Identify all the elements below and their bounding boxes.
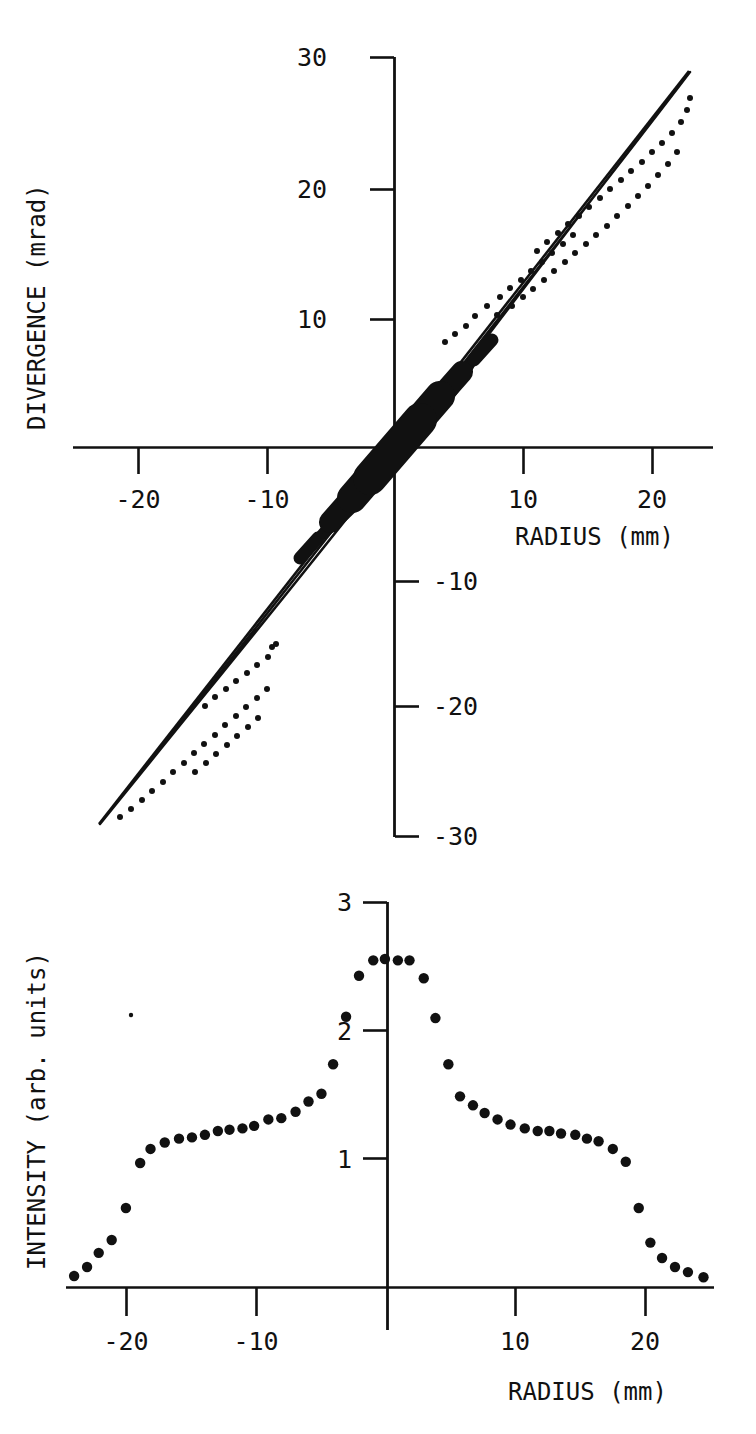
top-y-label-10: 10: [297, 305, 327, 334]
intensity-data-point: [316, 1089, 326, 1099]
intensity-data-point: [520, 1123, 530, 1133]
top-x-label-minus-10: -10: [244, 485, 289, 514]
intensity-data-point: [533, 1126, 543, 1136]
intensity-data-point: [468, 1100, 478, 1110]
intensity-data-point: [380, 954, 390, 964]
intensity-data-point: [419, 973, 429, 983]
intensity-data-point: [303, 1096, 313, 1106]
bottom-x-label-minus-10: -10: [233, 1327, 278, 1356]
intensity-data-point: [582, 1133, 592, 1143]
intensity-data-point: [404, 955, 414, 965]
intensity-data-point: [174, 1133, 184, 1143]
intensity-data-point: [354, 971, 364, 981]
intensity-data-point: [94, 1248, 104, 1258]
phase-space-core: [300, 340, 492, 558]
intensity-data-point: [443, 1059, 453, 1069]
intensity-data-point: [479, 1108, 489, 1118]
intensity-data-point: [263, 1114, 273, 1124]
intensity-data-point: [121, 1203, 131, 1213]
bottom-x-label-10: 10: [500, 1327, 530, 1356]
intensity-data-point: [698, 1272, 708, 1282]
bottom-x-axis-title: RADIUS (mm): [508, 1378, 667, 1406]
intensity-data-point: [670, 1262, 680, 1272]
top-x-label-minus-20: -20: [115, 485, 160, 514]
top-x-axis-title: RADIUS (mm): [515, 523, 674, 551]
bottom-y-label-2: 2: [337, 1017, 352, 1046]
intensity-data-point: [200, 1130, 210, 1140]
intensity-data-point: [593, 1136, 603, 1146]
bottom-y-axis-title: INTENSITY (arb. units): [23, 952, 51, 1270]
intensity-data-point: [187, 1132, 197, 1142]
scan-speck: [129, 1013, 133, 1017]
bottom-x-label-20: 20: [630, 1327, 660, 1356]
top-y-label-minus-30: -30: [433, 822, 478, 851]
intensity-profile-panel: 3 2 1 -20 -10 10 20 RADIUS (mm) INTENSIT…: [0, 870, 756, 1434]
top-x-label-20: 20: [637, 485, 667, 514]
top-y-label-20: 20: [297, 175, 327, 204]
intensity-data-point: [455, 1091, 465, 1101]
intensity-data-point: [224, 1124, 234, 1134]
top-y-label-minus-10: -10: [433, 567, 478, 596]
intensity-data-point: [505, 1119, 515, 1129]
intensity-data-point: [608, 1144, 618, 1154]
intensity-data-point: [328, 1059, 338, 1069]
intensity-data-point: [544, 1126, 554, 1136]
phase-space-dotted-upper: [442, 95, 693, 345]
intensity-data-point: [570, 1130, 580, 1140]
top-y-axis-title: DIVERGENCE (mrad): [23, 184, 51, 430]
intensity-data-point: [657, 1253, 667, 1263]
intensity-data-point: [556, 1128, 566, 1138]
intensity-data-point: [135, 1158, 145, 1168]
intensity-data-point: [213, 1126, 223, 1136]
bottom-x-label-minus-20: -20: [103, 1327, 148, 1356]
intensity-data-point: [290, 1107, 300, 1117]
intensity-data-point: [430, 1013, 440, 1023]
intensity-data-point: [145, 1144, 155, 1154]
intensity-data-point: [634, 1203, 644, 1213]
intensity-data-point: [249, 1121, 259, 1131]
intensity-data-point: [621, 1157, 631, 1167]
intensity-data-point: [368, 955, 378, 965]
top-y-label-30: 30: [297, 43, 327, 72]
intensity-data-point: [276, 1113, 286, 1123]
bottom-y-label-1: 1: [337, 1145, 352, 1174]
intensity-data-point: [237, 1123, 247, 1133]
intensity-data-point: [82, 1262, 92, 1272]
top-x-label-10: 10: [508, 485, 538, 514]
intensity-data-point: [492, 1114, 502, 1124]
intensity-data-point: [160, 1137, 170, 1147]
intensity-data-point: [683, 1267, 693, 1277]
intensity-data-point: [645, 1237, 655, 1247]
phase-space-dotted-lower: [117, 641, 279, 820]
intensity-data-point: [106, 1235, 116, 1245]
figure-canvas: 30 20 10 -10 -20 -30 -20 -10 10 20 RADIU…: [0, 0, 756, 1434]
phase-space-panel: 30 20 10 -10 -20 -30 -20 -10 10 20 RADIU…: [0, 0, 756, 870]
intensity-data-point: [393, 955, 403, 965]
top-y-label-minus-20: -20: [433, 692, 478, 721]
intensity-data-point: [69, 1271, 79, 1281]
bottom-y-label-3: 3: [337, 888, 352, 917]
